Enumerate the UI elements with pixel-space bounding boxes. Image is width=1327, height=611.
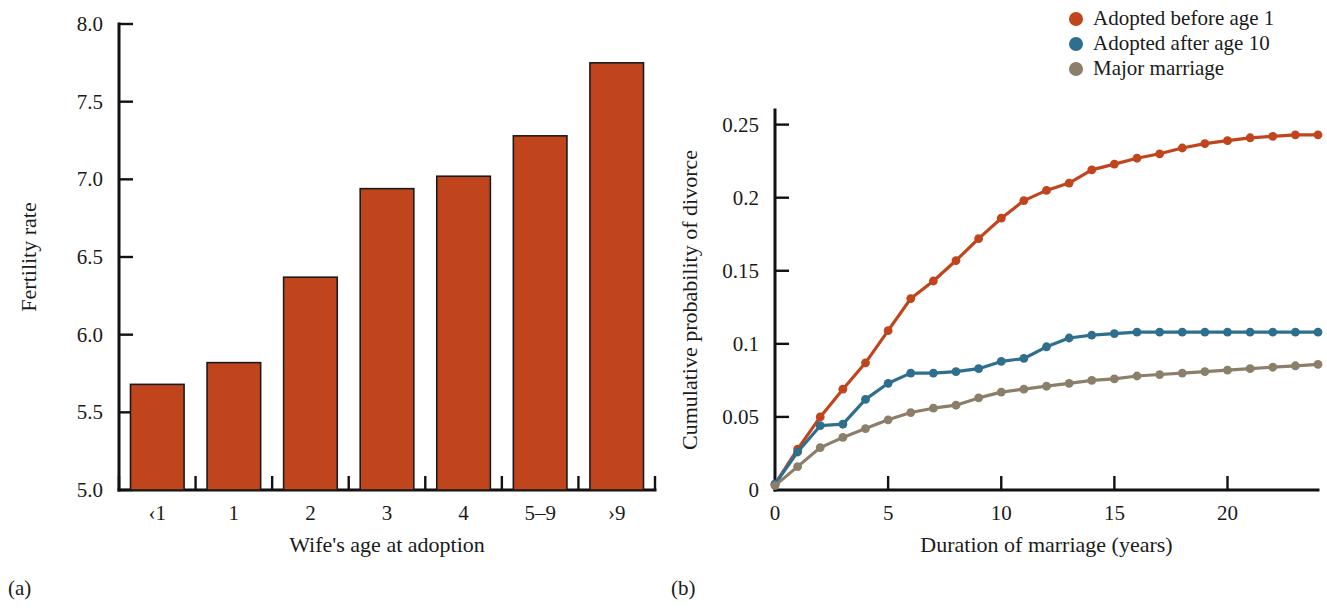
legend-item-label: Adopted before age 1	[1093, 8, 1274, 29]
data-point	[884, 415, 893, 424]
panel-a-y-tick-label: 5.5	[77, 400, 103, 424]
data-point	[1110, 160, 1119, 169]
data-point	[906, 369, 915, 378]
data-point	[1133, 372, 1142, 381]
data-point	[1110, 329, 1119, 338]
legend-marker-dot-icon	[1069, 37, 1083, 51]
data-point	[929, 369, 938, 378]
data-point	[997, 357, 1006, 366]
legend-marker-dot-icon	[1069, 12, 1083, 26]
data-point	[1019, 196, 1028, 205]
bar	[284, 277, 338, 490]
data-point	[1246, 328, 1255, 337]
data-point	[1065, 334, 1074, 343]
data-point	[1223, 366, 1232, 375]
panel-a-y-tick-label: 7.0	[77, 167, 103, 191]
data-point	[1178, 369, 1187, 378]
line-chart-svg: 00.050.10.150.20.2505101520Duration of m…	[663, 0, 1327, 560]
panel-a-x-tick-label: 2	[305, 501, 316, 525]
data-point	[838, 385, 847, 394]
data-point	[816, 421, 825, 430]
data-point	[1110, 375, 1119, 384]
panel-a-y-tick-label: 6.0	[77, 323, 103, 347]
data-point	[1200, 367, 1209, 376]
data-point	[1200, 328, 1209, 337]
data-point	[1314, 328, 1323, 337]
data-point	[861, 395, 870, 404]
data-point	[1268, 363, 1277, 372]
data-point	[1223, 136, 1232, 145]
data-point	[997, 214, 1006, 223]
data-point	[1314, 130, 1323, 139]
bar	[130, 384, 184, 490]
panel-a-bar-chart: 5.05.56.06.57.07.58.0‹112345–9›9Wife's a…	[0, 0, 663, 611]
panel-a-x-tick-label: ‹1	[149, 501, 167, 525]
bar-chart-svg: 5.05.56.06.57.07.58.0‹112345–9›9Wife's a…	[0, 0, 663, 560]
data-point	[1087, 376, 1096, 385]
data-point	[1246, 133, 1255, 142]
data-point	[1019, 385, 1028, 394]
data-point	[1246, 364, 1255, 373]
data-point	[1178, 144, 1187, 153]
panel-b-x-tick-label: 15	[1104, 501, 1125, 525]
panel-a-x-tick-label: ›9	[608, 501, 626, 525]
bar	[360, 189, 414, 490]
figure-root: 5.05.56.06.57.07.58.0‹112345–9›9Wife's a…	[0, 0, 1327, 611]
data-point	[1291, 130, 1300, 139]
data-point	[906, 408, 915, 417]
data-point	[1268, 132, 1277, 141]
panel-b-y-tick-label: 0.1	[733, 332, 759, 356]
legend-item: Major marriage	[1069, 56, 1274, 81]
data-point	[974, 234, 983, 243]
panel-a-x-tick-label: 3	[382, 501, 393, 525]
data-point	[861, 358, 870, 367]
series-line	[775, 332, 1318, 484]
panel-a-x-tick-label: 1	[229, 501, 240, 525]
data-point	[1087, 331, 1096, 340]
panel-b-x-tick-label: 5	[883, 501, 894, 525]
data-point	[1042, 342, 1051, 351]
data-point	[884, 326, 893, 335]
panel-a-y-tick-label: 5.0	[77, 478, 103, 502]
data-point	[1200, 139, 1209, 148]
data-point	[1291, 361, 1300, 370]
data-point	[952, 367, 961, 376]
panel-b-x-tick-label: 20	[1217, 501, 1238, 525]
data-point	[861, 424, 870, 433]
data-point	[906, 294, 915, 303]
data-point	[771, 481, 780, 490]
panel-b-y-tick-label: 0.25	[722, 113, 759, 137]
data-point	[974, 364, 983, 373]
data-point	[838, 420, 847, 429]
data-point	[1155, 149, 1164, 158]
panel-b-y-tick-label: 0.15	[722, 259, 759, 283]
data-point	[816, 413, 825, 422]
data-point	[1223, 328, 1232, 337]
bar	[590, 63, 644, 490]
bar	[513, 136, 567, 490]
panel-a-y-tick-label: 7.5	[77, 90, 103, 114]
data-point	[997, 388, 1006, 397]
panel-a-x-tick-label: 4	[458, 501, 469, 525]
panel-b-y-tick-label: 0.2	[733, 186, 759, 210]
data-point	[1268, 328, 1277, 337]
data-point	[1087, 166, 1096, 175]
legend: Adopted before age 1Adopted after age 10…	[1069, 6, 1274, 81]
data-point	[793, 462, 802, 471]
data-point	[1291, 328, 1300, 337]
data-point	[952, 256, 961, 265]
data-point	[929, 404, 938, 413]
data-point	[816, 443, 825, 452]
data-point	[1133, 154, 1142, 163]
data-point	[793, 448, 802, 457]
panel-a-x-axis-title: Wife's age at adoption	[289, 532, 485, 557]
bar	[207, 363, 261, 490]
data-point	[884, 379, 893, 388]
data-point	[1178, 328, 1187, 337]
data-point	[1065, 179, 1074, 188]
data-point	[1133, 328, 1142, 337]
bar	[437, 176, 491, 490]
legend-item-label: Adopted after age 10	[1093, 33, 1270, 54]
data-point	[1019, 354, 1028, 363]
data-point	[838, 433, 847, 442]
